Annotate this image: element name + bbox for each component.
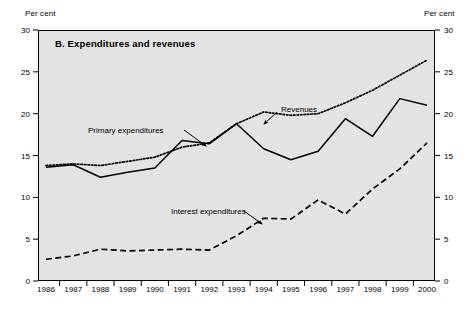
x-axis-tick-label: 1987 bbox=[64, 285, 82, 294]
y-axis-tick-label-left: 5 bbox=[6, 235, 30, 244]
x-axis-tick-label: 1993 bbox=[228, 285, 246, 294]
y-axis-tick-label-left: 15 bbox=[6, 151, 30, 160]
y-axis-tick-label-left: 10 bbox=[6, 193, 30, 202]
y-axis-tick-label-right: 30 bbox=[444, 26, 453, 35]
chart-title: B. Expenditures and revenues bbox=[55, 38, 195, 49]
x-axis-tick-label: 1999 bbox=[391, 285, 409, 294]
x-axis-tick-label: 1986 bbox=[37, 285, 55, 294]
y-axis-unit-label-right: Per cent bbox=[424, 9, 455, 18]
x-axis-tick-label: 2000 bbox=[418, 285, 436, 294]
x-axis-tick-label: 1997 bbox=[336, 285, 354, 294]
y-axis-tick-label-left: 20 bbox=[6, 109, 30, 118]
x-axis-tick-label: 1988 bbox=[92, 285, 110, 294]
series-annotation-label: Interest expenditures bbox=[171, 207, 246, 216]
y-axis-tick-label-left: 0 bbox=[6, 277, 30, 286]
y-axis-tick-label-right: 0 bbox=[444, 277, 448, 286]
y-axis-tick-label-right: 10 bbox=[444, 193, 453, 202]
y-axis-tick-label-left: 30 bbox=[6, 26, 30, 35]
x-axis-tick-label: 1994 bbox=[255, 285, 273, 294]
plot-area: B. Expenditures and revenues bbox=[38, 30, 435, 281]
y-axis-tick-label-left: 25 bbox=[6, 67, 30, 76]
y-axis-tick-label-right: 25 bbox=[444, 67, 453, 76]
x-axis-tick-label: 1991 bbox=[173, 285, 191, 294]
y-axis-tick-label-right: 15 bbox=[444, 151, 453, 160]
series-annotation-label: Primary expenditures bbox=[88, 126, 164, 135]
y-axis-tick-label-right: 5 bbox=[444, 235, 448, 244]
x-axis-tick-label: 1990 bbox=[146, 285, 164, 294]
y-axis-unit-label-left: Per cent bbox=[25, 9, 56, 18]
x-axis-tick-label: 1998 bbox=[364, 285, 382, 294]
y-axis-tick-label-right: 20 bbox=[444, 109, 453, 118]
x-axis-tick-label: 1992 bbox=[200, 285, 218, 294]
x-axis-tick-label: 1996 bbox=[309, 285, 327, 294]
x-axis-tick-label: 1995 bbox=[282, 285, 300, 294]
series-annotation-label: Revenues bbox=[281, 105, 317, 114]
x-axis-tick-label: 1989 bbox=[119, 285, 137, 294]
chart-figure: Per cent Per cent B. Expenditures and re… bbox=[0, 0, 473, 316]
